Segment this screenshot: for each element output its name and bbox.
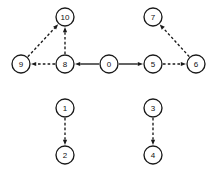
graph-node-2[interactable]: 2 [56,146,74,164]
graph-node-1[interactable]: 1 [56,99,74,117]
graph-node-4[interactable]: 4 [144,146,162,164]
graph-node-3[interactable]: 3 [144,99,162,117]
arrowhead-9-to-10 [53,24,58,29]
edge-9-to-10 [28,28,55,57]
node-label-2: 2 [63,151,68,160]
edge-6-to-7 [163,28,189,56]
arrowhead-8-to-9 [31,62,36,66]
arrowhead-6-to-7 [160,24,165,29]
arrowhead-1-to-2 [63,140,67,145]
node-label-9: 9 [19,60,24,69]
graph-node-8[interactable]: 8 [56,55,74,73]
node-label-4: 4 [151,151,156,160]
node-label-6: 6 [194,60,199,69]
graph-node-10[interactable]: 10 [56,8,74,26]
graph-node-7[interactable]: 7 [144,8,162,26]
graph-node-6[interactable]: 6 [187,55,205,73]
graph-diagram: 107980561324 [0,0,212,174]
node-label-0: 0 [107,60,112,69]
edge-layer [28,24,189,145]
arrowhead-5-to-6 [181,62,186,66]
graph-node-5[interactable]: 5 [144,55,162,73]
node-label-3: 3 [151,104,156,113]
arrowhead-0-to-5 [138,62,143,66]
node-label-10: 10 [61,13,70,22]
arrowhead-8-to-10 [63,27,67,32]
graph-node-0[interactable]: 0 [100,55,118,73]
arrowhead-3-to-4 [151,140,155,145]
node-label-5: 5 [151,60,156,69]
node-layer: 107980561324 [12,8,205,164]
node-label-7: 7 [151,13,156,22]
node-label-1: 1 [63,104,68,113]
graph-node-9[interactable]: 9 [12,55,30,73]
arrowhead-0-to-8 [75,62,80,66]
node-label-8: 8 [63,60,68,69]
